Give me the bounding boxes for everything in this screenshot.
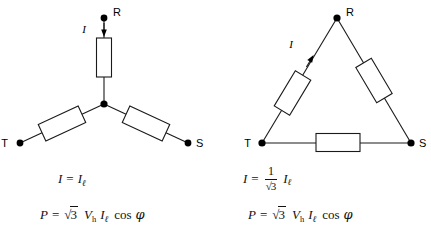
delta-eq-current-rhs-subscript: ℓ xyxy=(288,177,292,187)
star-power-equation: P=√3VhIℓcosφ xyxy=(40,208,145,224)
delta-eq-current-fraction: 1√3 xyxy=(265,165,278,192)
star-label-s: S xyxy=(196,137,203,149)
delta-resistor-rs-group xyxy=(356,58,392,102)
delta-eq-current-denominator-radicand: 3 xyxy=(271,179,278,192)
star-eq-power-voltage: V xyxy=(84,207,92,222)
delta-eq-power-cos: cos xyxy=(322,207,339,222)
delta-resistor-rs xyxy=(356,58,392,102)
star-eq-current-rhs-subscript: ℓ xyxy=(82,178,86,188)
star-eq-power-radical: √3 xyxy=(63,208,78,221)
star-resistor-t xyxy=(38,106,85,141)
delta-eq-power-angle: φ xyxy=(344,207,353,222)
delta-label-t: T xyxy=(244,137,251,149)
delta-current-label: I xyxy=(288,38,294,50)
delta-current-equation: I=1√3Iℓ xyxy=(243,166,291,193)
delta-terminal-dot-r xyxy=(333,14,340,21)
star-neutral-node xyxy=(100,100,107,107)
delta-eq-current-lhs: I xyxy=(243,171,247,186)
star-eq-power-angle: φ xyxy=(136,207,145,222)
delta-eq-power-equals: = xyxy=(260,207,267,222)
star-eq-current-lhs: I xyxy=(58,171,62,186)
delta-label-r: R xyxy=(346,6,354,18)
delta-eq-current-equals: = xyxy=(251,171,258,186)
star-resistor-t-group xyxy=(38,106,85,141)
star-eq-power-lhs: P xyxy=(40,207,48,222)
delta-eq-current-denominator: √3 xyxy=(265,180,278,193)
star-label-r: R xyxy=(113,6,121,18)
star-eq-power-radicand: 3 xyxy=(70,206,78,222)
delta-eq-power-lhs: P xyxy=(248,207,256,222)
star-resistor-s-group xyxy=(122,106,169,141)
star-terminal-dot-t xyxy=(17,140,24,147)
delta-eq-current-numerator: 1 xyxy=(265,165,278,180)
star-connection-diagram: R T S I xyxy=(0,0,215,165)
delta-denominator-radical: √3 xyxy=(265,181,278,193)
delta-label-s: S xyxy=(419,137,426,149)
star-current-arrow-head xyxy=(101,30,107,38)
delta-resistor-ts xyxy=(316,134,360,152)
delta-terminal-dot-s xyxy=(407,139,414,146)
star-eq-current-equals: = xyxy=(66,171,73,186)
star-eq-power-voltage-subscript: h xyxy=(92,214,96,224)
delta-power-equation: P=√3VhIℓcosφ xyxy=(248,208,353,224)
delta-eq-power-voltage-subscript: h xyxy=(300,214,304,224)
delta-eq-power-current-subscript: ℓ xyxy=(312,214,316,224)
delta-eq-power-radical: √3 xyxy=(271,208,286,221)
star-label-t: T xyxy=(1,137,8,149)
star-resistor-s xyxy=(122,106,169,141)
star-eq-power-cos: cos xyxy=(114,207,131,222)
star-current-label: I xyxy=(81,23,87,35)
delta-terminal-dot-t xyxy=(258,139,265,146)
star-terminal-dot-s xyxy=(185,140,192,147)
delta-resistor-tr-group xyxy=(274,71,311,115)
figure-canvas: R T S I R T S I xyxy=(0,0,431,243)
delta-connection-diagram: R T S I xyxy=(215,0,431,165)
star-eq-power-current-subscript: ℓ xyxy=(104,214,108,224)
delta-eq-power-radicand: 3 xyxy=(278,206,286,222)
star-eq-power-equals: = xyxy=(52,207,59,222)
delta-eq-power-voltage: V xyxy=(292,207,300,222)
star-terminal-dot-r xyxy=(101,15,108,22)
star-resistor-r xyxy=(97,38,112,77)
delta-resistor-tr xyxy=(274,71,311,115)
star-current-equation: I=Iℓ xyxy=(58,172,86,188)
